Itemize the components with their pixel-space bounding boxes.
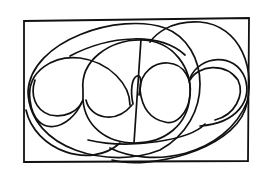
center-left-lobe	[86, 100, 132, 117]
curves-group	[26, 22, 249, 163]
figure-canvas	[0, 0, 261, 176]
line-art-figure	[0, 0, 261, 176]
right-heart-inner	[190, 68, 240, 120]
large-left-ellipse	[28, 24, 200, 158]
center-right-circle	[140, 63, 190, 123]
large-right-ellipse	[112, 22, 249, 163]
left-heart-inner	[33, 80, 83, 116]
bottom-sweep	[110, 100, 248, 157]
inner-band-lower	[88, 124, 205, 144]
center-circle	[83, 40, 190, 143]
